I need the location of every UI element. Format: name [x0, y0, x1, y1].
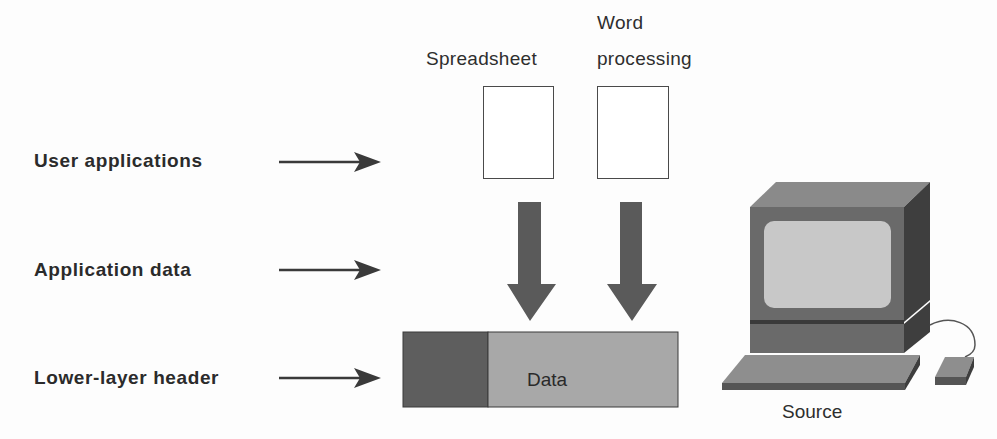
pointer-arrow-icon	[279, 152, 381, 172]
source-label: Source	[782, 401, 842, 423]
down-arrow-icon	[507, 202, 556, 321]
data-segment-label: Data	[527, 369, 567, 391]
header-segment	[403, 332, 488, 407]
data-segment	[488, 332, 678, 407]
pointer-arrow-icon	[279, 368, 381, 388]
down-arrow-icon	[607, 202, 657, 321]
diagram-graphics	[0, 0, 997, 439]
computer-icon	[722, 182, 975, 390]
encapsulation-diagram: User applications Application data Lower…	[0, 0, 997, 439]
pointer-arrow-icon	[279, 260, 381, 280]
